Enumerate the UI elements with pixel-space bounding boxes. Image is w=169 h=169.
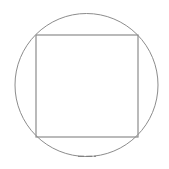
diagram-canvas bbox=[0, 0, 169, 169]
inscribed-square bbox=[36, 35, 138, 137]
